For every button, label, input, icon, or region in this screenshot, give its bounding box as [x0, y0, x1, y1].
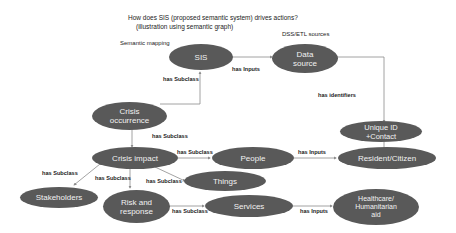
node-stakeholders: Stakeholders — [20, 187, 98, 208]
edge-label-impact-risk: has Subclass — [95, 175, 131, 181]
node-crisis-occurrence-label: Crisis occurrence — [110, 107, 150, 125]
node-services: Services — [205, 195, 293, 217]
node-resident-citizen-label: Resident/Citizen — [358, 154, 416, 163]
node-services-label: Services — [234, 202, 265, 211]
diagram-subtitle: (illustration using semantic graph) — [136, 23, 233, 30]
edge-label-risk-services: has Subclass — [172, 208, 208, 214]
edge-label-services-healthcare: has Inputs — [300, 208, 328, 214]
node-people: People — [212, 147, 294, 169]
node-sis: SIS — [169, 44, 233, 70]
diagram-title: How does SIS (proposed semantic system) … — [128, 14, 298, 21]
node-risk-response-label: Risk and response — [120, 198, 153, 216]
edge-label-impact-things: has Subclass — [146, 178, 182, 184]
edge-label-sis-data: has Inputs — [232, 66, 260, 72]
node-unique-id: Unique ID +Contact — [340, 121, 422, 142]
node-healthcare-label: Healthcare/ Humanitarian aid — [355, 195, 397, 219]
node-healthcare: Healthcare/ Humanitarian aid — [333, 189, 419, 225]
node-data-source: Data source — [272, 44, 338, 73]
node-risk-response: Risk and response — [103, 190, 170, 223]
node-resident-citizen: Resident/Citizen — [338, 147, 436, 169]
edge-label-occurrence-sis: has Subclass — [163, 76, 199, 82]
node-crisis-occurrence: Crisis occurrence — [92, 102, 167, 130]
node-unique-id-label: Unique ID +Contact — [364, 123, 397, 141]
edge-label-data-unique: has identifiers — [318, 92, 356, 98]
node-crisis-impact-label: Crisis impact — [112, 154, 158, 163]
note-dss-etl: DSS/ETL sources — [282, 31, 329, 37]
edge-label-occurrence-impact: has Subclass — [152, 133, 188, 139]
node-people-label: People — [241, 154, 266, 163]
node-crisis-impact: Crisis impact — [92, 147, 178, 169]
node-data-source-label: Data source — [293, 50, 317, 68]
edge-label-impact-people: has Subclass — [177, 149, 213, 155]
note-semantic-mapping: Semantic mapping — [120, 40, 170, 46]
edge-label-impact-stakeholders: has Subclass — [42, 170, 78, 176]
node-stakeholders-label: Stakeholders — [36, 193, 83, 202]
node-sis-label: SIS — [195, 53, 208, 62]
node-things-label: Things — [213, 177, 237, 186]
node-things: Things — [184, 171, 266, 191]
edge-label-people-resident: has Inputs — [298, 149, 326, 155]
